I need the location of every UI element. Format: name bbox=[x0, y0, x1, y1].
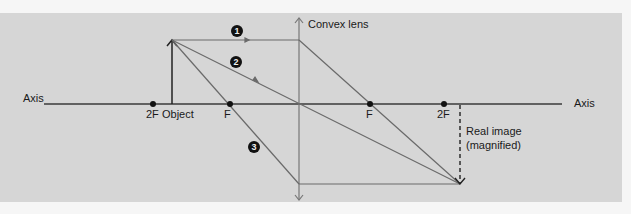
ray-3-marker: 3 bbox=[248, 141, 260, 153]
ray-2 bbox=[172, 40, 460, 184]
left-f-point bbox=[227, 101, 233, 107]
lens-label: Convex lens bbox=[308, 18, 369, 30]
image-label-line1: Real image bbox=[466, 125, 522, 137]
left-2f-label: 2F bbox=[146, 108, 159, 120]
right-2f-label: 2F bbox=[437, 108, 450, 120]
real-image-arrow bbox=[455, 105, 465, 184]
right-f-point bbox=[367, 101, 373, 107]
right-2f-point bbox=[441, 101, 447, 107]
convex-lens bbox=[295, 18, 303, 200]
ray-2-marker: 2 bbox=[230, 56, 242, 68]
left-f-label: F bbox=[224, 108, 231, 120]
object-arrow bbox=[167, 40, 177, 104]
ray-diagram bbox=[0, 0, 631, 214]
axis-label-left: Axis bbox=[23, 92, 44, 104]
axis-label-right: Axis bbox=[574, 97, 595, 109]
left-2f-point bbox=[150, 101, 156, 107]
ray-1-marker: 1 bbox=[231, 25, 243, 37]
image-label-line2: (magnified) bbox=[466, 139, 521, 151]
object-label: Object bbox=[162, 108, 194, 120]
right-f-label: F bbox=[366, 108, 373, 120]
